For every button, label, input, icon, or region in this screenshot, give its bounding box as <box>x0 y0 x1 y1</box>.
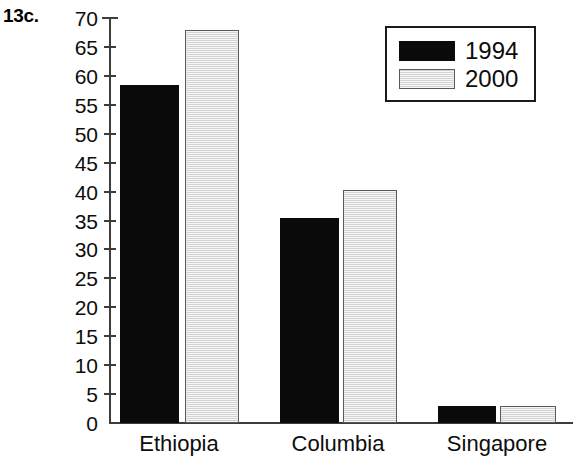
legend-swatch-1994 <box>399 41 455 61</box>
y-tick-label-15: 15 <box>52 326 98 347</box>
y-tick-label-20: 20 <box>52 297 98 318</box>
y-tick-label-50: 50 <box>52 123 98 144</box>
x-label-columbia: Columbia <box>292 432 385 456</box>
legend-entry-2000: 2000 <box>399 66 518 91</box>
bar-chart-figure: 13c. 7065605550454035302520151050 Ethiop… <box>0 0 574 473</box>
y-tick-label-35: 35 <box>52 210 98 231</box>
y-tick-label-60: 60 <box>52 65 98 86</box>
y-tick-label-70: 70 <box>52 8 98 29</box>
x-label-ethiopia: Ethiopia <box>139 432 219 456</box>
y-tick-label-30: 30 <box>52 239 98 260</box>
y-tick-label-55: 55 <box>52 94 98 115</box>
x-label-singapore: Singapore <box>447 432 547 456</box>
legend-label-2000: 2000 <box>465 67 518 91</box>
y-tick-label-45: 45 <box>52 152 98 173</box>
legend-entry-1994: 1994 <box>399 38 518 63</box>
y-tick-label-25: 25 <box>52 268 98 289</box>
bar-columbia-1994 <box>280 218 339 423</box>
chart-legend: 1994 2000 <box>385 26 536 102</box>
legend-swatch-2000 <box>399 69 455 89</box>
y-tick-label-0: 0 <box>52 413 98 434</box>
legend-label-1994: 1994 <box>465 39 518 63</box>
y-tick-label-10: 10 <box>52 355 98 376</box>
y-tick-label-65: 65 <box>52 36 98 57</box>
bar-columbia-2000 <box>343 190 397 423</box>
bar-singapore-1994 <box>438 406 496 423</box>
y-axis-tick-labels: 7065605550454035302520151050 <box>44 0 98 473</box>
x-axis-category-labels: EthiopiaColumbiaSingapore <box>110 432 574 466</box>
bar-ethiopia-2000 <box>185 30 239 423</box>
y-tick-label-5: 5 <box>52 384 98 405</box>
bar-ethiopia-1994 <box>120 85 179 423</box>
y-tick-label-40: 40 <box>52 181 98 202</box>
problem-number-label: 13c. <box>3 6 39 25</box>
bar-singapore-2000 <box>500 406 556 423</box>
